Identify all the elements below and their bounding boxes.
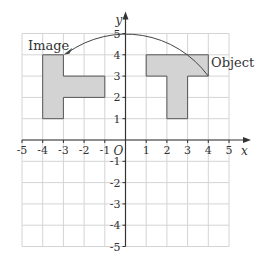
image-label: Image bbox=[28, 38, 70, 53]
y-axis-arrow-icon bbox=[123, 12, 129, 20]
x-tick-label: -2 bbox=[79, 144, 90, 157]
object-shape bbox=[146, 55, 208, 119]
object-label: Object bbox=[211, 55, 255, 70]
x-tick-label: 2 bbox=[163, 144, 170, 157]
x-tick-label: 3 bbox=[184, 144, 191, 157]
y-tick-label: -3 bbox=[110, 198, 121, 211]
x-tick-label: -5 bbox=[17, 144, 28, 157]
x-tick-label: -4 bbox=[37, 144, 48, 157]
x-tick-label: -3 bbox=[58, 144, 69, 157]
y-tick-label: 1 bbox=[114, 113, 121, 126]
x-tick-label: 5 bbox=[226, 144, 233, 157]
y-tick-label: -2 bbox=[110, 177, 121, 190]
image-shape bbox=[43, 55, 105, 119]
x-tick-label: 1 bbox=[143, 144, 150, 157]
x-tick-label: -1 bbox=[99, 144, 110, 157]
y-axis-label: y bbox=[115, 13, 123, 27]
y-tick-label: 3 bbox=[114, 70, 121, 83]
x-axis-label: x bbox=[241, 144, 248, 158]
x-tick-label: 4 bbox=[205, 144, 212, 157]
x-axis-arrow-icon bbox=[243, 137, 251, 143]
origin-label: O bbox=[114, 144, 124, 158]
rotation-diagram: -5-4-3-2-11234554321-1-2-3-4-5 Image Obj… bbox=[0, 0, 260, 263]
y-tick-label: 2 bbox=[114, 91, 121, 104]
y-tick-label: 4 bbox=[114, 49, 121, 62]
y-tick-label: -5 bbox=[110, 241, 121, 254]
y-tick-label: -4 bbox=[110, 219, 121, 232]
